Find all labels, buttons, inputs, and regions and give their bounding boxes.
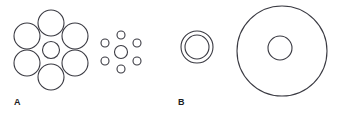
surrounding-ring-circle: [237, 6, 327, 96]
inducer-circle: [101, 39, 109, 47]
illusion-figure: AB: [0, 0, 344, 123]
inducer-circle: [14, 50, 40, 76]
target-circle: [268, 36, 292, 60]
target-circle: [185, 35, 209, 59]
inducer-circle: [38, 10, 64, 36]
inducer-circle: [133, 57, 141, 65]
circles-layer: [14, 6, 327, 96]
target-circle: [43, 42, 60, 59]
inducer-circle: [101, 57, 109, 65]
inducer-circle: [38, 64, 64, 90]
target-circle: [115, 46, 128, 59]
panel-label-b: B: [178, 97, 185, 107]
inducer-circle: [117, 31, 125, 39]
inducer-circle: [133, 39, 141, 47]
inducer-circle: [62, 50, 88, 76]
surrounding-ring-circle: [181, 31, 213, 63]
inducer-circle: [14, 23, 40, 49]
panel-label-a: A: [14, 97, 21, 107]
inducer-circle: [117, 65, 125, 73]
panel-labels-layer: AB: [14, 97, 185, 107]
figure-canvas: AB: [0, 0, 344, 123]
inducer-circle: [62, 23, 88, 49]
